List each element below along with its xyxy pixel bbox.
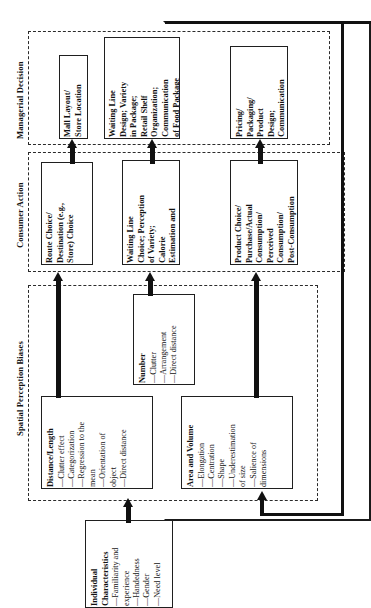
figure-canvas: Managerial Decision Mall Layout/ Store L… xyxy=(0,0,371,608)
box-line: Purchase/Actual xyxy=(245,196,256,263)
box-bullets: —Familiarity and experience —Handedness … xyxy=(111,548,163,606)
box-line: Communication xyxy=(277,79,288,137)
connector-arrow-number-to-waitingline xyxy=(145,272,155,281)
bullet: of size xyxy=(238,424,248,487)
connector-shaft-individual-to-distance xyxy=(126,507,131,523)
connector-shaft-waitingline-to-waitingline xyxy=(150,148,155,164)
box-line: Store Location xyxy=(74,84,85,137)
box-line: Consumption xyxy=(179,195,180,263)
bullet: —Handedness xyxy=(132,548,142,606)
box-line: Retail Shelf xyxy=(140,78,151,137)
bullet: dimensions xyxy=(259,424,269,487)
bullet: mean xyxy=(88,422,98,487)
box-line: Choice; Perception xyxy=(137,195,148,263)
connector-shaft-distance-to-route xyxy=(56,281,61,398)
box-line: in Package; xyxy=(129,78,140,137)
feedback-loop-riser-segment xyxy=(260,500,264,514)
connector-arrow-waitingline-to-waitingline xyxy=(147,139,157,148)
box-line: Consumption/ xyxy=(276,196,287,263)
bullet: —Shape xyxy=(217,424,227,487)
box-title: Distance/Length xyxy=(46,422,57,487)
box-area-and-volume[interactable]: Area and Volume —Elongation —Centration … xyxy=(181,396,293,489)
box-line: Perceived xyxy=(266,196,277,263)
box-title: Waiting Line xyxy=(108,78,119,137)
panel-label-spatial-perception-biases: Spatial Perception Biases xyxy=(15,341,25,436)
box-title: Number xyxy=(138,325,149,383)
connector-arrow-distance-to-route xyxy=(53,272,63,281)
box-product-choice-consumption[interactable]: Product Choice/ Purchase/Actual Consumpt… xyxy=(230,160,298,265)
bullet: —Clutter effect xyxy=(57,422,67,487)
panel-label-managerial-decision: Managerial Decision xyxy=(15,61,25,139)
box-line: Destination (e.g., xyxy=(56,203,67,263)
box-title: Individual xyxy=(90,548,101,606)
feedback-loop-bottom-segment xyxy=(260,513,344,516)
bullet: —Direct distance xyxy=(169,325,179,383)
box-line: Store) Choice xyxy=(66,203,77,263)
connector-arrow-individual-to-distance xyxy=(123,498,133,507)
box-line: Characteristics xyxy=(101,548,112,606)
bullet: object xyxy=(109,422,119,487)
box-individual-characteristics[interactable]: Individual Characteristics —Familiarity … xyxy=(85,520,173,608)
box-title: Waiting Line xyxy=(126,195,137,263)
feedback-loop-right-segment xyxy=(341,21,344,516)
connector-shaft-route-to-mall xyxy=(70,148,75,164)
box-title: Pricing/ xyxy=(235,79,246,137)
bullet: —Categorization xyxy=(67,422,77,487)
bullet: —Underestimation xyxy=(228,424,238,487)
bullet: —Regression to the xyxy=(77,422,87,487)
box-route-choice-destination[interactable]: Route Choice/ Destination (e.g., Store) … xyxy=(41,162,93,265)
feedback-loop-arrowhead xyxy=(257,491,267,500)
connector-arrow-route-to-mall xyxy=(67,139,77,148)
box-line: Communication xyxy=(161,78,172,137)
bullet: —Need level xyxy=(153,548,163,606)
box-line: Consumption/ xyxy=(255,196,266,263)
bullet: experience xyxy=(122,548,132,606)
connector-shaft-area-to-product xyxy=(254,281,259,398)
bullet: —Gender xyxy=(142,548,152,606)
box-line: Calorie xyxy=(158,195,169,263)
box-line: of Food Package xyxy=(172,78,180,137)
bullet: —Familiarity and xyxy=(111,548,121,606)
box-title: Route Choice/ xyxy=(45,203,56,263)
box-line: Organization; xyxy=(150,78,161,137)
box-title: Mall Layout/ xyxy=(63,84,74,137)
bullet: —Direct distance xyxy=(119,422,129,487)
box-pricing-packaging-product-design[interactable]: Pricing/ Packaging/ Product Design; Comm… xyxy=(230,46,288,139)
bullet: —Clutter xyxy=(149,325,159,383)
box-line: Post-Consumption xyxy=(287,196,298,263)
panel-label-consumer-action: Consumer Action xyxy=(15,182,25,248)
box-waiting-line-design-managerial[interactable]: Waiting Line Design; Variety in Package;… xyxy=(104,37,180,139)
bullet: —Salience of xyxy=(249,424,259,487)
box-line: Product xyxy=(256,79,267,137)
connector-shaft-product-to-pricing xyxy=(258,148,263,164)
box-bullets: —Clutter effect —Categorization —Regress… xyxy=(57,422,130,487)
box-line: Design; xyxy=(267,79,278,137)
box-mall-layout-store-location[interactable]: Mall Layout/ Store Location xyxy=(59,55,88,139)
box-line: Estimation and xyxy=(168,195,179,263)
bullet: —Centration xyxy=(207,424,217,487)
box-line: of Variety; xyxy=(147,195,158,263)
box-number[interactable]: Number —Clutter —Arrangement —Direct dis… xyxy=(133,294,195,385)
box-line: Design; Variety xyxy=(119,78,130,137)
bullet: —Elongation xyxy=(197,424,207,487)
box-waiting-line-choice-perception[interactable]: Waiting Line Choice; Perception of Varie… xyxy=(122,160,180,265)
box-title: Product Choice/ xyxy=(234,196,245,263)
connector-arrow-product-to-pricing xyxy=(255,139,265,148)
connector-shaft-number-to-waitingline xyxy=(148,281,153,296)
box-title: Area and Volume xyxy=(186,424,197,487)
box-bullets: —Clutter —Arrangement —Direct distance xyxy=(149,325,180,383)
connector-arrow-area-to-product xyxy=(251,272,261,281)
box-line: Packaging/ xyxy=(246,79,257,137)
box-distance-length[interactable]: Distance/Length —Clutter effect —Categor… xyxy=(41,396,153,489)
bullet: —Orientation of xyxy=(98,422,108,487)
bullet: —Arrangement xyxy=(159,325,169,383)
box-bullets: —Elongation —Centration —Shape —Underest… xyxy=(197,424,270,487)
